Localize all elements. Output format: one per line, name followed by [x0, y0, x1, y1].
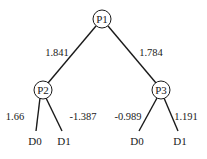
- node-p2: P2: [34, 81, 52, 99]
- tree-diagram: P1 P2 P3 D0 D1 D0 D1 1.841 1.784 1.66 -1…: [0, 0, 207, 159]
- node-p1: P1: [93, 10, 111, 28]
- weight-p1-p3: 1.784: [139, 47, 163, 58]
- edge-p2-d0: [36, 98, 40, 131]
- weight-p1-p2: 1.841: [45, 47, 69, 58]
- node-p3-label: P3: [155, 84, 167, 96]
- weight-p2-d1: -1.387: [69, 111, 96, 122]
- node-p2-label: P2: [37, 84, 49, 96]
- leaf-p2-d1: D1: [57, 135, 70, 147]
- node-p3: P3: [152, 81, 170, 99]
- node-p1-label: P1: [96, 13, 108, 25]
- weight-p3-d0: -0.989: [114, 111, 141, 122]
- leaf-p3-d1: D1: [173, 135, 186, 147]
- weight-p2-d0: 1.66: [6, 111, 24, 122]
- leaf-p2-d0: D0: [28, 135, 42, 147]
- edge-p2-d1: [46, 98, 62, 131]
- weight-p3-d1: 1.191: [174, 111, 198, 122]
- edge-p3-d0: [139, 98, 157, 131]
- leaf-p3-d0: D0: [130, 135, 144, 147]
